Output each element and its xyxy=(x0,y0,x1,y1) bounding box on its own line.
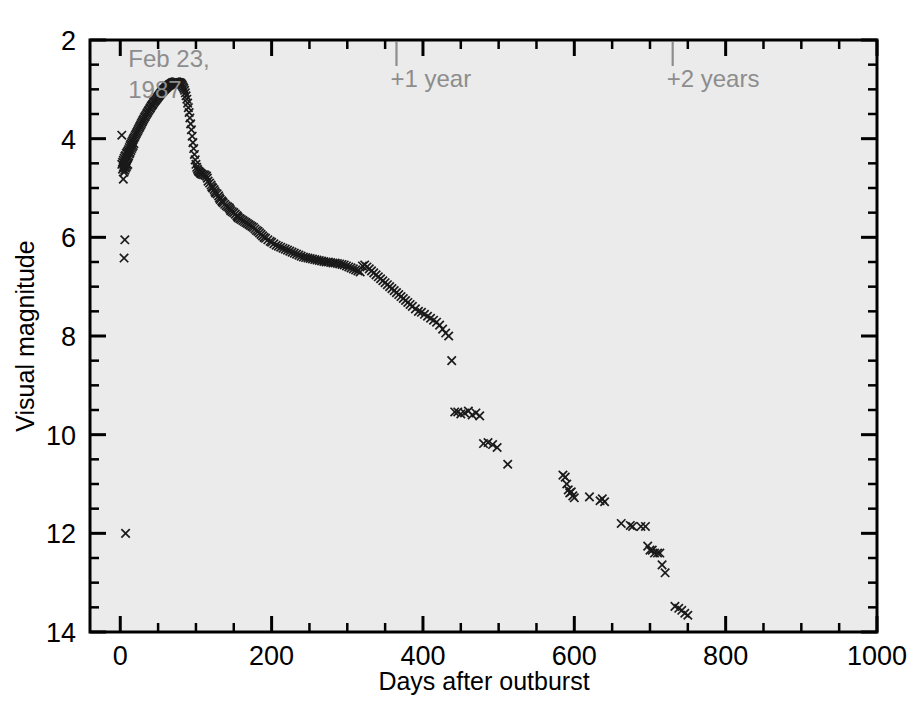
figure-caption-ghost xyxy=(10,703,14,713)
y-tick-label: 14 xyxy=(46,618,76,648)
y-tick-label: 10 xyxy=(46,421,76,451)
annotation-label: +1 year xyxy=(390,65,471,92)
annotation-label: Feb 23, xyxy=(128,45,209,72)
y-tick-label: 8 xyxy=(61,322,76,352)
supernova-light-curve-chart: 02004006008001000 2468101214 Feb 23,1987… xyxy=(0,0,922,714)
x-tick-label: 0 xyxy=(113,641,128,671)
x-tick-label: 1000 xyxy=(847,641,907,671)
x-axis-title: Days after outburst xyxy=(378,667,589,695)
y-tick-label: 4 xyxy=(61,125,76,155)
y-tick-label: 12 xyxy=(46,519,76,549)
light-curve-figure: 02004006008001000 2468101214 Feb 23,1987… xyxy=(0,0,922,714)
annotation-label: +2 years xyxy=(667,65,760,92)
annotation-label: 1987 xyxy=(128,76,181,103)
x-tick-label: 800 xyxy=(703,641,748,671)
plot-frame xyxy=(90,40,877,632)
y-axis-title: Visual magnitude xyxy=(11,240,39,431)
x-tick-label: 200 xyxy=(249,641,294,671)
y-tick-label: 6 xyxy=(61,223,76,253)
y-tick-label: 2 xyxy=(61,26,76,56)
